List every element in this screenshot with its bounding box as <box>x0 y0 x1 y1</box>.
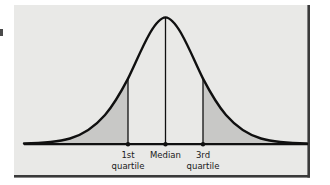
distribution-chart-svg: 1st quartile Median 3rd quartile <box>0 0 330 185</box>
page-edge-artifact <box>0 29 3 36</box>
q3-marker-dot <box>201 142 205 146</box>
median-label-line1: Median <box>150 150 181 160</box>
q1-label-line1: 1st <box>121 150 135 160</box>
q3-label-line1: 3rd <box>196 150 210 160</box>
q1-marker-dot <box>126 142 130 146</box>
median-marker-dot <box>163 142 167 146</box>
q3-label-line2: quartile <box>187 161 220 171</box>
normal-distribution-figure: 1st quartile Median 3rd quartile <box>0 0 330 185</box>
panel-border-bottom <box>14 175 310 178</box>
q1-label-line2: quartile <box>112 161 145 171</box>
panel-border-right <box>307 5 310 178</box>
